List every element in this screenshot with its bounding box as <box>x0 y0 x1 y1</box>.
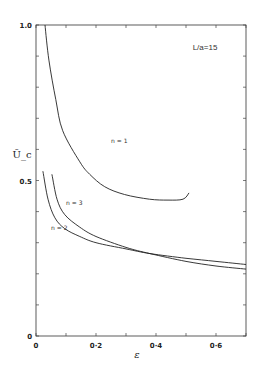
curves <box>43 25 246 269</box>
x-axis-label: ε <box>134 349 139 360</box>
x-tick-label: 0·4 <box>150 342 163 350</box>
curve-n1 <box>45 25 189 200</box>
y-tick-label: 0 <box>27 333 32 341</box>
y-tick-label: 0.5 <box>20 178 33 186</box>
y-tick-label: 1.0 <box>20 22 33 30</box>
y-axis-label: Ū_c <box>12 149 31 161</box>
labels: n = 1n = 3n = 2 <box>51 137 128 231</box>
x-tick-label: 0·6 <box>210 342 223 350</box>
line-chart: 00·20·40·600.51.0 n = 1n = 3n = 2 ε Ū_c … <box>0 0 259 373</box>
axis-ticks: 00·20·40·600.51.0 <box>20 22 246 350</box>
curve-label-n2: n = 2 <box>51 224 68 231</box>
plot-frame <box>36 25 246 336</box>
curve-n3 <box>52 174 246 269</box>
x-tick-label: 0 <box>34 342 39 350</box>
curve-label-n3: n = 3 <box>66 199 83 206</box>
axes-box <box>36 25 246 336</box>
x-tick-label: 0·2 <box>90 342 103 350</box>
curve-label-n1: n = 1 <box>111 137 128 144</box>
parameter-annotation: L/a=15 <box>193 43 218 52</box>
curve-n2 <box>43 171 246 264</box>
